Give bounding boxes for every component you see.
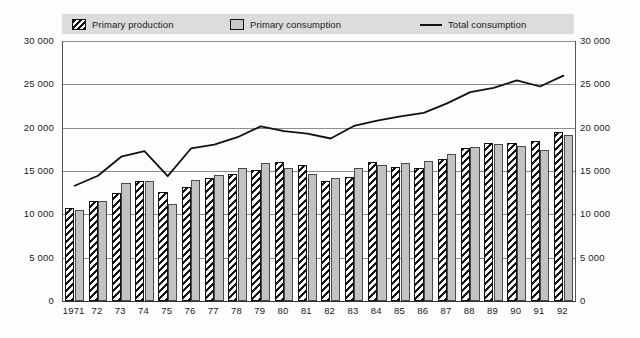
legend-label-primary-production: Primary production (92, 19, 174, 30)
plot-area (62, 41, 576, 302)
y-tick-label-left: 20 000 (0, 122, 54, 133)
y-tick-label-right: 10 000 (580, 208, 636, 219)
y-tick-label-right: 0 (580, 295, 636, 306)
total-consumption-line (63, 41, 575, 301)
line-path (75, 76, 564, 186)
hatched-square-icon (72, 19, 86, 30)
y-tick-label-right: 30 000 (580, 35, 636, 46)
legend-label-primary-consumption: Primary consumption (250, 19, 341, 30)
energy-chart-figure: Primary production Primary consumption T… (0, 0, 640, 338)
x-axis-labels: 1971727374757677787980818283848586878889… (62, 305, 574, 321)
y-tick-label-right: 15 000 (580, 165, 636, 176)
chart-legend: Primary production Primary consumption T… (62, 14, 574, 34)
legend-label-total-consumption: Total consumption (448, 19, 526, 30)
y-tick-label-left: 25 000 (0, 78, 54, 89)
y-tick-label-left: 15 000 (0, 165, 54, 176)
y-tick-label-right: 25 000 (580, 78, 636, 89)
legend-item-total-consumption: Total consumption (420, 14, 526, 34)
y-tick-label-left: 10 000 (0, 208, 54, 219)
legend-item-primary-consumption: Primary consumption (230, 14, 341, 34)
legend-item-primary-production: Primary production (72, 14, 174, 34)
y-tick-label-right: 5 000 (580, 252, 636, 263)
y-tick-label-left: 0 (0, 295, 54, 306)
x-tick-label: 92 (546, 305, 578, 316)
y-tick-label-left: 5 000 (0, 252, 54, 263)
line-segment-icon (420, 19, 442, 30)
y-tick-label-left: 30 000 (0, 35, 54, 46)
y-tick-label-right: 20 000 (580, 122, 636, 133)
gray-square-icon (230, 19, 244, 30)
